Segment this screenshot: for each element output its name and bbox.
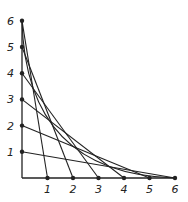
y-tick-label: 2	[7, 120, 14, 133]
line-envelope-diagram: 123456123456	[0, 0, 188, 202]
x-point-dot	[71, 176, 75, 180]
y-tick-label: 6	[7, 15, 14, 28]
axes	[22, 21, 175, 178]
x-tick-label: 1	[44, 183, 51, 196]
envelope-curve-path	[22, 21, 175, 178]
y-tick-label: 1	[7, 146, 14, 159]
y-tick-label: 3	[7, 93, 14, 106]
envelope-curve	[22, 21, 175, 178]
y-point-dot	[20, 150, 24, 154]
y-tick-label: 4	[7, 67, 14, 80]
x-tick-label: 2	[70, 183, 77, 196]
x-point-dot	[96, 176, 100, 180]
x-tick-label: 5	[146, 183, 153, 196]
x-point-dot	[147, 176, 151, 180]
x-tick-label: 6	[172, 183, 179, 196]
y-point-dot	[20, 19, 24, 23]
stitch-lines	[22, 21, 175, 178]
x-point-dot	[45, 176, 49, 180]
x-tick-label: 3	[95, 183, 102, 196]
axis-labels: 123456123456	[7, 15, 179, 196]
y-point-dot	[20, 45, 24, 49]
y-tick-label: 5	[7, 41, 14, 54]
x-point-dot	[122, 176, 126, 180]
x-tick-label: 4	[121, 183, 128, 196]
y-point-dot	[20, 97, 24, 101]
y-point-dot	[20, 71, 24, 75]
x-point-dot	[173, 176, 177, 180]
stitch-line	[22, 47, 73, 178]
y-point-dot	[20, 123, 24, 127]
